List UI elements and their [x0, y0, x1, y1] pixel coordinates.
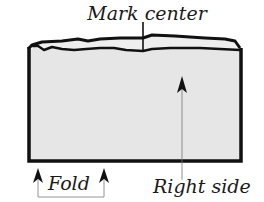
right-side-label: Right side	[152, 175, 251, 197]
fabric-panel	[30, 47, 240, 160]
fabric-diagram: Mark center Fold Right side	[0, 0, 264, 202]
mark-center-label: Mark center	[86, 2, 208, 24]
fold-label: Fold	[47, 172, 90, 194]
diagram-canvas: Mark center Fold Right side	[0, 0, 264, 202]
